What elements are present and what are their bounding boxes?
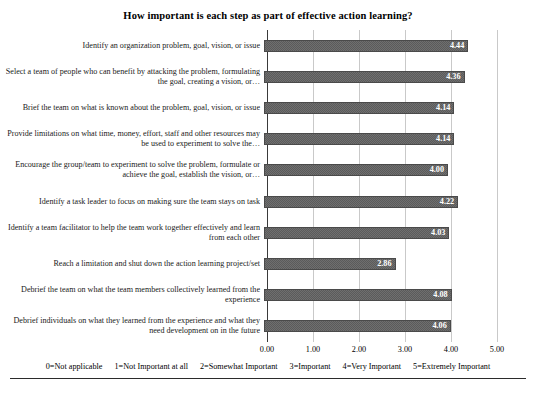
bar-row: Identify a task leader to focus on makin… — [0, 186, 536, 217]
bar-value-label: 4.06 — [432, 321, 449, 331]
bar-track: 4.14 — [263, 124, 536, 155]
x-tick-label: 0.00 — [260, 344, 274, 355]
bar-row: Brief the team on what is known about th… — [0, 92, 536, 123]
bar-value-label: 4.44 — [450, 41, 467, 51]
bar-value-label: 4.03 — [431, 228, 448, 238]
bar-track: 2.86 — [263, 248, 536, 279]
scale-key-item: 2=Somewhat Important — [194, 361, 284, 372]
x-tick-label: 2.00 — [352, 344, 366, 355]
bottom-divider — [10, 378, 526, 379]
scale-key-legend: 0=Not applicable1=Not Important at all2=… — [0, 361, 536, 372]
bar-value-label: 4.00 — [430, 165, 447, 175]
bar-value-label: 4.22 — [440, 197, 457, 207]
x-tick-label: 1.00 — [306, 344, 320, 355]
category-label: Identify a team facilitator to help the … — [0, 223, 263, 243]
scale-key-item: 3=Important — [284, 361, 337, 372]
bar: 4.44 — [264, 40, 468, 52]
category-label: Provide limitations on what time, money,… — [0, 129, 263, 149]
bar-row: Debrief the team on what the team member… — [0, 280, 536, 311]
category-label: Reach a limitation and shut down the act… — [0, 259, 263, 269]
bar-value-label: 4.08 — [433, 290, 450, 300]
bar: 4.36 — [264, 71, 465, 83]
x-tick-label: 3.00 — [398, 344, 412, 355]
bar: 4.08 — [264, 289, 452, 301]
x-tick-label: 4.00 — [444, 344, 458, 355]
bar: 4.14 — [264, 133, 454, 145]
category-label: Identify a task leader to focus on makin… — [0, 197, 263, 207]
category-label: Debrief individuals on what they learned… — [0, 316, 263, 336]
bar-value-label: 4.14 — [436, 103, 453, 113]
bar: 4.14 — [264, 102, 454, 114]
bar-value-label: 4.36 — [446, 72, 463, 82]
bar-row: Identify a team facilitator to help the … — [0, 217, 536, 248]
bar-track: 4.08 — [263, 280, 536, 311]
bar-track: 4.00 — [263, 155, 536, 186]
x-axis-tick-labels: 0.001.002.003.004.005.00 — [267, 344, 497, 356]
bar-value-label: 4.14 — [436, 134, 453, 144]
x-tick-label: 5.00 — [490, 344, 504, 355]
bar-track: 4.36 — [263, 61, 536, 92]
scale-key-item: 1=Not Important at all — [108, 361, 194, 372]
category-label: Identify an organization problem, goal, … — [0, 41, 263, 51]
bar-row: Identify an organization problem, goal, … — [0, 30, 536, 61]
bar-track: 4.22 — [263, 186, 536, 217]
bar-row: Reach a limitation and shut down the act… — [0, 248, 536, 279]
bar-row: Encourage the group/team to experiment t… — [0, 155, 536, 186]
scale-key-item: 0=Not applicable — [40, 361, 109, 372]
bar-rows: Identify an organization problem, goal, … — [0, 30, 536, 342]
bar-row: Debrief individuals on what they learned… — [0, 311, 536, 342]
bar-row: Select a team of people who can benefit … — [0, 61, 536, 92]
category-label: Brief the team on what is known about th… — [0, 103, 263, 113]
scale-key-item: 4=Very Important — [337, 361, 408, 372]
plot-area: Identify an organization problem, goal, … — [0, 30, 536, 342]
chart-title: How important is each step as part of ef… — [0, 9, 536, 22]
scale-key-item: 5=Extremely Important — [407, 361, 496, 372]
bar-track: 4.06 — [263, 311, 536, 342]
bar: 4.22 — [264, 196, 458, 208]
bar-track: 4.44 — [263, 30, 536, 61]
bar-track: 4.14 — [263, 92, 536, 123]
bar: 2.86 — [264, 258, 396, 270]
bar-row: Provide limitations on what time, money,… — [0, 124, 536, 155]
bar-track: 4.03 — [263, 217, 536, 248]
bar-chart-figure: How important is each step as part of ef… — [0, 0, 536, 397]
bar-value-label: 2.86 — [377, 259, 394, 269]
bar: 4.06 — [264, 320, 451, 332]
bar: 4.03 — [264, 227, 449, 239]
category-label: Debrief the team on what the team member… — [0, 285, 263, 305]
category-label: Encourage the group/team to experiment t… — [0, 160, 263, 180]
category-label: Select a team of people who can benefit … — [0, 67, 263, 87]
bar: 4.00 — [264, 164, 448, 176]
